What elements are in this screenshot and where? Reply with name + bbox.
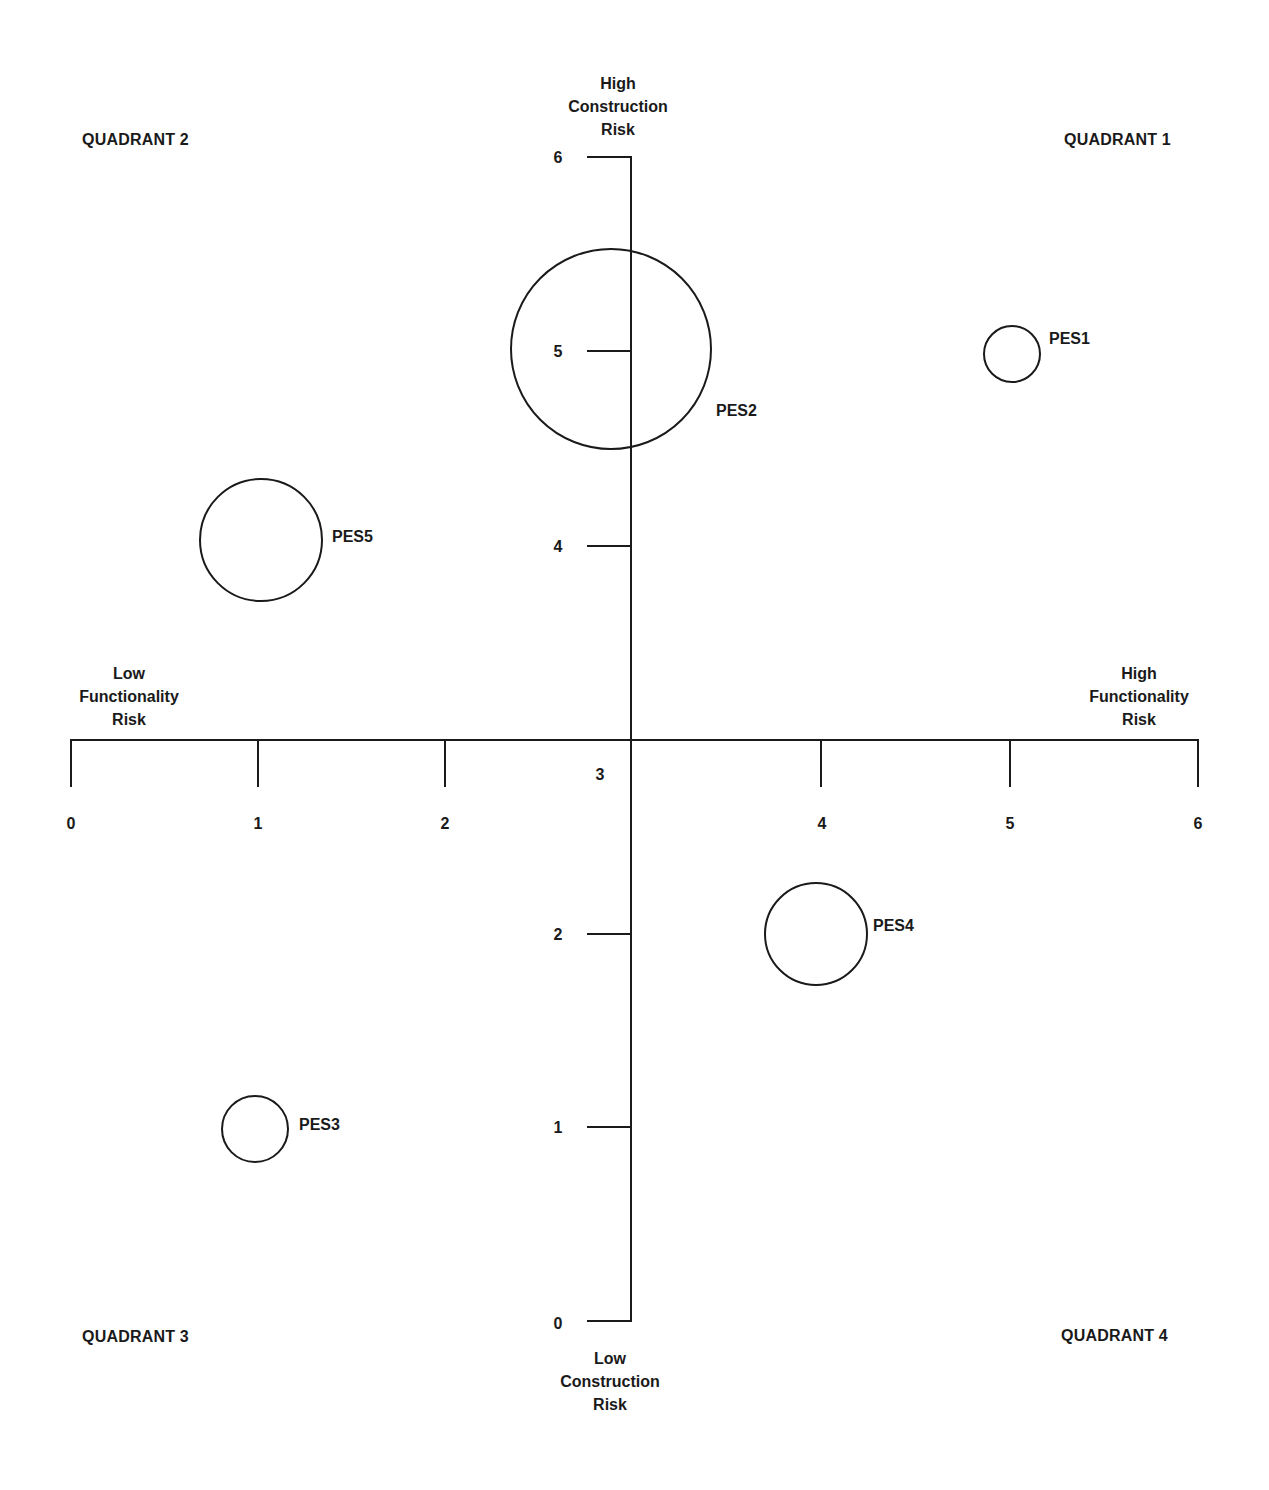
bubble-pes1: PES1 xyxy=(984,326,1090,382)
y-tick-label-3: 3 xyxy=(596,766,605,783)
x-axis: 0 1 2 4 5 6 xyxy=(67,740,1203,832)
y-tick-label-1: 1 xyxy=(554,1119,563,1136)
x-tick-label-5: 5 xyxy=(1006,815,1015,832)
bubble-pes4: PES4 xyxy=(765,883,914,985)
bubble-pes3-label: PES3 xyxy=(299,1116,340,1133)
y-tick-label-4: 4 xyxy=(554,538,563,555)
bubble-pes4-circle xyxy=(765,883,867,985)
bubble-pes1-label: PES1 xyxy=(1049,330,1090,347)
x-tick-label-2: 2 xyxy=(441,815,450,832)
y-tick-label-6: 6 xyxy=(554,149,563,166)
bubble-pes4-label: PES4 xyxy=(873,917,914,934)
bubble-pes5-circle xyxy=(200,479,322,601)
bubbles: PES2 PES1 PES5 PES4 PES3 xyxy=(200,249,1090,1162)
x-tick-label-1: 1 xyxy=(254,815,263,832)
bubble-pes5-label: PES5 xyxy=(332,528,373,545)
bubble-pes5: PES5 xyxy=(200,479,373,601)
x-tick-label-4: 4 xyxy=(818,815,827,832)
x-tick-label-0: 0 xyxy=(67,815,76,832)
bubble-pes2-circle xyxy=(511,249,711,449)
bubble-quadrant-chart: 6 5 4 3 2 1 0 0 1 2 4 5 6 PES2 PES1 xyxy=(0,0,1269,1490)
y-tick-label-2: 2 xyxy=(554,926,563,943)
bubble-pes3: PES3 xyxy=(222,1096,340,1162)
bubble-pes2: PES2 xyxy=(511,249,757,449)
bubble-pes1-circle xyxy=(984,326,1040,382)
bubble-pes2-label: PES2 xyxy=(716,402,757,419)
bubble-pes3-circle xyxy=(222,1096,288,1162)
y-tick-label-0: 0 xyxy=(554,1315,563,1332)
x-tick-label-6: 6 xyxy=(1194,815,1203,832)
